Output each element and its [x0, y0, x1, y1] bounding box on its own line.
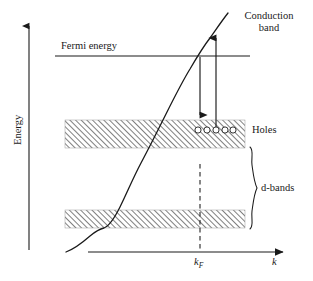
conduction-band-label: Conductionband: [232, 10, 306, 34]
hole-circle: [230, 127, 236, 133]
k-fermi-label: kF: [194, 256, 203, 270]
fermi-energy-label: Fermi energy: [61, 40, 117, 52]
hole-circle: [204, 127, 210, 133]
hole-circle: [222, 127, 228, 133]
conduction-band-label-line2: band: [259, 22, 279, 33]
figure-canvas: [0, 0, 313, 281]
holes-label: Holes: [252, 124, 277, 136]
hole-circle: [195, 127, 201, 133]
d-bands-label: d-bands: [261, 182, 294, 194]
band-structure-figure: Fermi energy Conductionband Holes d-band…: [0, 0, 313, 281]
k-fermi-subscript: F: [199, 261, 204, 270]
k-axis-label: k: [272, 256, 277, 268]
hole-circle: [213, 127, 219, 133]
conduction-band-label-line1: Conduction: [245, 10, 294, 21]
d-bands-brace: [250, 147, 257, 229]
lower-d-band: [65, 210, 245, 228]
upper-d-band: [65, 120, 245, 148]
energy-axis-label: Energy: [12, 100, 24, 160]
